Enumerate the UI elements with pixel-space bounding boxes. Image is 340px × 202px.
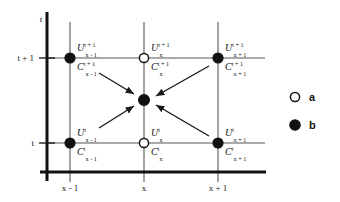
node-x-t [139, 138, 148, 147]
label-u-x-tp1: Ut + 1x [151, 41, 170, 58]
legend-marker-b [290, 120, 300, 130]
label-c-xp1-t: Ctx + 1 [225, 145, 246, 162]
x-tick-label-xm1: x - 1 [62, 183, 79, 193]
arrow-from-top-right [156, 66, 209, 96]
label-c-xp1-tp1: Ct + 1x + 1 [225, 60, 246, 77]
y-tick-label-t: t [31, 138, 34, 148]
label-c-x-t: Ctx [151, 145, 164, 162]
label-c-x-tp1: Ct + 1x [151, 60, 169, 77]
arrow-from-bottom-left [99, 106, 134, 128]
node-xp1-t [213, 138, 223, 148]
node-xm1-t [65, 138, 75, 148]
legend-marker-a [290, 92, 299, 101]
arrow-from-top-left [99, 73, 134, 94]
label-u-xp1-t: Utx + 1 [225, 126, 246, 143]
label-u-xm1-t: Utx - 1 [77, 126, 97, 143]
stencil-diagram-figure: t t + 1 t x - 1 x x + 1 Ut + 1x - 1 [0, 0, 340, 202]
node-xp1-tp1 [213, 53, 223, 63]
y-tick-label-tp1: t + 1 [17, 53, 34, 63]
label-u-xp1-tp1: Ut + 1x + 1 [225, 41, 246, 58]
arrows [99, 66, 209, 136]
x-tick-label-xp1: x + 1 [209, 183, 228, 193]
label-c-xm1-t: Ctx - 1 [77, 145, 97, 162]
node-xm1-tp1 [65, 53, 75, 63]
node-center [139, 95, 150, 106]
label-u-x-t: Utx [151, 126, 164, 143]
x-tick-label-x: x [142, 183, 147, 193]
legend: a b [290, 91, 316, 131]
label-u-xm1-tp1: Ut + 1x - 1 [77, 41, 97, 58]
label-c-xm1-tp1: Ct + 1x - 1 [77, 60, 97, 77]
node-x-tp1 [139, 53, 148, 62]
arrow-from-bottom-right [156, 105, 209, 136]
y-axis-label: t [40, 14, 43, 24]
legend-label-b: b [309, 119, 316, 131]
stencil-canvas: t t + 1 t x - 1 x x + 1 Ut + 1x - 1 [0, 0, 340, 202]
legend-label-a: a [309, 91, 316, 103]
